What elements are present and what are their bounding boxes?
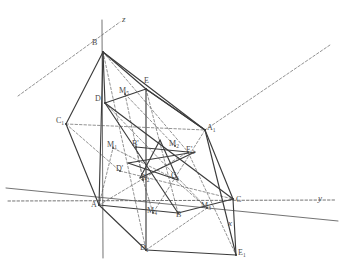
point-label-A1: A1 <box>207 124 216 132</box>
point-label-A: A <box>91 201 97 209</box>
point-label-C: C <box>236 196 241 204</box>
point-label-C1b: C1 <box>171 172 179 180</box>
point-label-Dp: D' <box>116 165 123 173</box>
edge-D1-E1 <box>146 250 236 255</box>
edge-D-B2 <box>105 103 178 213</box>
axis-label-x: x <box>228 219 232 228</box>
point-label-M5: M5 <box>119 87 129 95</box>
ray-upper-right <box>205 45 330 130</box>
dash-E1p-E1 <box>188 152 236 255</box>
point-label-E1: E1 <box>238 249 246 257</box>
point-label-B: B <box>92 39 97 47</box>
point-label-A2: A2 <box>141 174 150 182</box>
diagram-canvas: ABCDEA1C1D1E1BB'D'A2C1E'1M1M2M3M4M5zyx <box>0 0 342 278</box>
dash-C1-A1 <box>66 124 205 130</box>
point-label-Bp: B' <box>132 140 139 148</box>
point-label-C1: C1 <box>56 117 64 125</box>
y <box>8 200 336 201</box>
vertex-dot-C <box>232 198 234 200</box>
axis-label-y: y <box>318 194 322 203</box>
edge-B-C1 <box>66 52 103 124</box>
point-label-D1: D1 <box>140 244 149 252</box>
point-label-M2: M2 <box>169 140 179 148</box>
dash-B-D1 <box>103 52 146 250</box>
axis-label-z: z <box>122 15 126 24</box>
vertex-dot-B <box>102 51 104 53</box>
edge-A1-E1 <box>205 130 236 255</box>
point-label-D: D <box>95 95 101 103</box>
vertex-dot-C1 <box>65 123 67 125</box>
vertex-dot-E1 <box>235 254 237 256</box>
edge-A-B2 <box>99 205 178 213</box>
vertex-dot-D <box>104 102 106 104</box>
edge-C1-A <box>66 124 99 205</box>
vertex-dot-A1 <box>204 129 206 131</box>
point-label-B2: B <box>176 211 181 219</box>
dash-A-M1 <box>99 148 113 205</box>
vertex-dot-A <box>98 204 100 206</box>
point-label-M1: M1 <box>107 141 117 149</box>
solid-line-group <box>66 52 236 255</box>
vertex-dot-E <box>145 88 147 90</box>
point-label-M3: M3 <box>201 202 211 210</box>
point-label-E: E <box>144 77 149 85</box>
edge-A-D1 <box>99 205 146 250</box>
point-label-M4: M4 <box>147 207 157 215</box>
point-label-E1p: E'1 <box>186 146 195 154</box>
